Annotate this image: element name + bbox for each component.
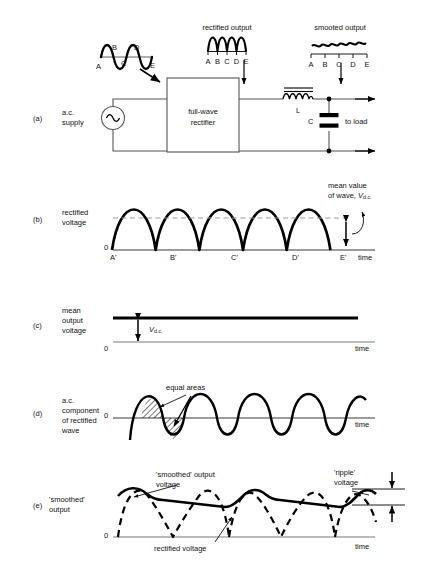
mean-value-note-line2: of wave, Vd.c.	[328, 191, 372, 202]
panel-d-zero: 0	[104, 411, 108, 421]
junction-dot-bottom	[327, 149, 332, 154]
ac-source-symbol	[102, 107, 125, 130]
smoothed-tick-d: D	[347, 60, 359, 70]
smoothed-tick-e: E	[361, 60, 373, 70]
panel-e-zero: 0	[104, 531, 108, 541]
mean-callout-arrow	[352, 212, 364, 234]
panel-e-time: time	[355, 542, 369, 552]
panel-d-time: time	[355, 420, 369, 430]
panel-b-tick-a: A'	[110, 253, 116, 263]
inductor-icon	[283, 94, 313, 99]
smoothed-output-caption: smooted output	[294, 23, 386, 33]
ac-component-curve	[130, 394, 366, 440]
panel-c-ylabel-line3: voltage	[62, 326, 86, 336]
ac-input-waveform	[101, 45, 152, 69]
section-label-b: (b)	[33, 215, 42, 225]
input-point-a: A	[96, 62, 101, 72]
rectifier-smoothing-figure	[0, 0, 421, 575]
rectifier-label-line2: rectifier	[167, 118, 239, 128]
section-label-d: (d)	[33, 409, 42, 419]
smoothed-tick-b: B	[319, 60, 331, 70]
panel-c-vdc: Vd.c.	[149, 325, 163, 336]
smoothed-note-line1: 'smoothed' output	[156, 470, 215, 480]
panel-c-zero: 0	[104, 344, 108, 354]
rectified-output-caption: rectified output	[182, 23, 272, 33]
equal-areas-annotation: equal areas	[166, 383, 205, 393]
input-point-e: E	[150, 61, 155, 71]
input-point-c: C	[121, 59, 126, 69]
ac-supply-label-line2: supply	[62, 118, 84, 128]
section-label-a: (a)	[33, 114, 42, 124]
input-point-b: B	[112, 43, 117, 53]
section-label-e: (e)	[33, 501, 42, 511]
junction-dot-top	[327, 97, 332, 102]
inductor-label: L	[296, 106, 300, 116]
panel-b-plot	[112, 210, 375, 251]
rectified-output-waveform	[207, 38, 247, 56]
smoothed-output-waveform	[311, 42, 367, 58]
panel-d-ylabel-line4: wave	[62, 426, 80, 436]
panel-b-tick-b: B'	[170, 253, 176, 263]
rectified-voltage-dashed-1	[118, 491, 229, 537]
smoothed-note-line2: voltage	[156, 480, 180, 490]
capacitor-icon	[320, 113, 339, 128]
panel-d-ylabel-line2: component	[62, 406, 99, 416]
smoothed-tick-c: C	[333, 60, 345, 70]
panel-e-ylabel-line1: 'smoothed'	[49, 495, 85, 505]
rectifier-label-line1: full-wave	[167, 107, 239, 117]
rectified-voltage-dashed-3	[335, 494, 376, 537]
panel-c-ylabel-line1: mean	[62, 306, 81, 316]
section-label-c: (c)	[33, 321, 42, 331]
panel-d-ylabel-line1: a.c.	[62, 396, 74, 406]
smoothed-tick-a: A	[305, 60, 317, 70]
ripple-note-line1: 'ripple'	[334, 468, 355, 478]
panel-c-ylabel-line2: output	[62, 316, 83, 326]
panel-b-tick-e: E'	[340, 253, 346, 263]
panel-b-time: time	[358, 253, 372, 263]
input-point-d: D	[134, 43, 139, 53]
input-arrow-icon	[140, 69, 160, 82]
ac-supply-label-line1: a.c.	[62, 108, 74, 118]
panel-b-ylabel-line1: rectified	[62, 208, 88, 218]
panel-b-zero: 0	[104, 243, 108, 253]
mean-value-note-line1: mean value	[328, 181, 367, 191]
rectified-tick-e: E	[240, 57, 252, 67]
panel-c-time: time	[355, 344, 369, 354]
capacitor-label: C	[308, 117, 313, 127]
panel-b-tick-c: C'	[231, 253, 238, 263]
to-load-label: to load	[345, 117, 368, 127]
panel-d-plot	[113, 394, 375, 440]
rectified-voltage-note: rectified voltage	[154, 544, 207, 554]
ripple-note-line2: voltage	[334, 478, 358, 488]
panel-b-ylabel-line2: voltage	[62, 218, 86, 228]
panel-e-ylabel-line2: output	[49, 505, 70, 515]
panel-b-tick-d: D'	[292, 253, 299, 263]
panel-d-ylabel-line3: of rectified	[62, 416, 97, 426]
inductor-core-lines	[284, 88, 313, 92]
